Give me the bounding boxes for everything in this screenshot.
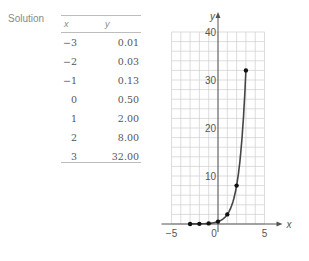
data-point [188,222,192,226]
y-tick-label: 40 [205,27,217,38]
data-point [244,68,248,72]
x-axis-arrow-icon [277,222,283,227]
x-axis-label: x [286,219,293,230]
x-tick-label: 5 [262,228,268,239]
data-point [216,219,220,223]
data-point [197,222,201,226]
y-tick-label: 30 [205,75,217,86]
exponential-graph: xy−50510203040 [0,0,309,261]
data-point [225,212,229,216]
data-point [234,183,238,187]
y-axis-label: y [209,11,216,22]
data-point [207,221,211,225]
y-axis-arrow-icon [216,12,221,18]
x-tick-label: 0 [211,228,217,239]
y-tick-label: 10 [205,171,217,182]
x-tick-label: −5 [166,228,178,239]
y-tick-label: 20 [205,123,217,134]
